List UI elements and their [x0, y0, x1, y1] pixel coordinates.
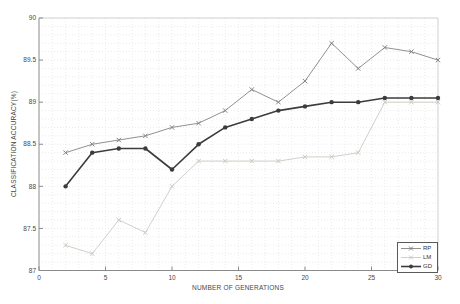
legend: RP LM GD: [397, 242, 438, 273]
data-point-marker: [436, 96, 440, 100]
y-tick-label: 88: [29, 183, 37, 190]
y-tick-label: 89.5: [23, 56, 36, 63]
data-point-marker: [250, 117, 254, 121]
x-tick-label: 15: [235, 274, 243, 281]
y-tick-label: 87: [29, 267, 37, 274]
plot-area: 8787.58888.58989.590051015202530: [0, 0, 460, 304]
data-point-marker: [356, 100, 360, 104]
legend-item-gd: GD: [401, 263, 434, 270]
legend-label: LM: [423, 254, 431, 261]
y-tick-label: 88.5: [23, 140, 36, 147]
y-tick-label: 90: [29, 14, 37, 21]
chart-figure: 8787.58888.58989.590051015202530 CLASSIF…: [0, 0, 460, 304]
data-point-marker: [196, 142, 200, 146]
x-tick-label: 20: [301, 274, 309, 281]
x-tick-label: 30: [434, 274, 442, 281]
x-tick-label: 5: [104, 274, 108, 281]
x-tick-label: 0: [37, 274, 41, 281]
data-point-marker: [63, 184, 67, 188]
legend-label: GD: [423, 263, 432, 270]
data-point-marker: [143, 146, 147, 150]
legend-item-lm: LM: [401, 254, 434, 261]
x-tick-label: 10: [168, 274, 176, 281]
data-point-marker: [409, 96, 413, 100]
legend-line-sample-gd: [401, 263, 421, 270]
y-tick-label: 87.5: [23, 225, 36, 232]
data-point-marker: [90, 150, 94, 154]
data-point-marker: [276, 108, 280, 112]
legend-sample-marker: [409, 265, 413, 269]
y-tick-label: 89: [29, 98, 37, 105]
data-point-marker: [117, 146, 121, 150]
legend-label: RP: [423, 245, 431, 252]
data-point-marker: [303, 104, 307, 108]
legend-item-rp: RP: [401, 245, 434, 252]
y-axis-label: CLASSIFICATION ACCURACY(%): [10, 91, 17, 197]
legend-line-sample-lm: [401, 254, 421, 261]
x-axis-label: NUMBER OF GENERATIONS: [192, 284, 284, 291]
legend-line-sample-rp: [401, 245, 421, 252]
x-tick-label: 25: [368, 274, 376, 281]
data-point-marker: [329, 100, 333, 104]
data-point-marker: [383, 96, 387, 100]
data-point-marker: [170, 167, 174, 171]
minor-grid: [39, 18, 438, 271]
data-point-marker: [223, 125, 227, 129]
